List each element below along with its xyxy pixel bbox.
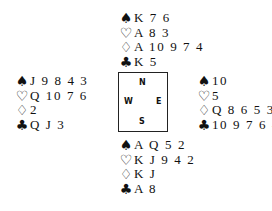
club-icon: ♣ <box>14 118 30 133</box>
east-hearts: ♡5 <box>196 89 272 104</box>
compass-east: E <box>156 97 161 106</box>
south-diamonds: ♢K J <box>118 167 195 182</box>
spade-icon: ♠ <box>14 74 30 89</box>
west-hearts: ♡Q 10 7 6 <box>14 89 88 104</box>
south-spades: ♠A Q 5 2 <box>118 138 195 153</box>
south-hand: ♠A Q 5 2 ♡K J 9 4 2 ♢K J ♣A 8 <box>118 138 195 196</box>
compass-west: W <box>124 97 133 106</box>
compass-box: N W E S <box>118 72 168 132</box>
north-hand: ♠K 7 6 ♡A 8 3 ♢A 10 9 7 4 ♣K 5 <box>118 11 204 69</box>
west-diamonds: ♢2 <box>14 103 88 118</box>
compass-south: S <box>139 117 145 126</box>
spade-icon: ♠ <box>118 11 134 26</box>
south-clubs: ♣A 8 <box>118 182 195 197</box>
south-hearts: ♡K J 9 4 2 <box>118 153 195 168</box>
heart-icon: ♡ <box>118 26 134 41</box>
north-diamonds: ♢A 10 9 7 4 <box>118 40 204 55</box>
west-clubs: ♣Q J 3 <box>14 118 88 133</box>
heart-icon: ♡ <box>14 89 30 104</box>
heart-icon: ♡ <box>118 153 134 168</box>
club-icon: ♣ <box>118 55 134 70</box>
spade-icon: ♠ <box>196 74 212 89</box>
diamond-icon: ♢ <box>118 40 134 55</box>
north-clubs: ♣K 5 <box>118 55 204 70</box>
diamond-icon: ♢ <box>118 167 134 182</box>
spade-icon: ♠ <box>118 138 134 153</box>
compass-north: N <box>139 78 146 87</box>
west-hand: ♠J 9 8 4 3 ♡Q 10 7 6 ♢2 ♣Q J 3 <box>14 74 88 132</box>
diamond-icon: ♢ <box>196 103 212 118</box>
club-icon: ♣ <box>118 182 134 197</box>
east-diamonds: ♢Q 8 6 5 3 <box>196 103 272 118</box>
west-spades: ♠J 9 8 4 3 <box>14 74 88 89</box>
east-clubs: ♣10 9 7 6 4 2 <box>196 118 272 133</box>
east-spades: ♠10 <box>196 74 272 89</box>
diamond-icon: ♢ <box>14 103 30 118</box>
north-spades: ♠K 7 6 <box>118 11 204 26</box>
north-hearts: ♡A 8 3 <box>118 26 204 41</box>
heart-icon: ♡ <box>196 89 212 104</box>
club-icon: ♣ <box>196 118 212 133</box>
east-hand: ♠10 ♡5 ♢Q 8 6 5 3 ♣10 9 7 6 4 2 <box>196 74 272 132</box>
